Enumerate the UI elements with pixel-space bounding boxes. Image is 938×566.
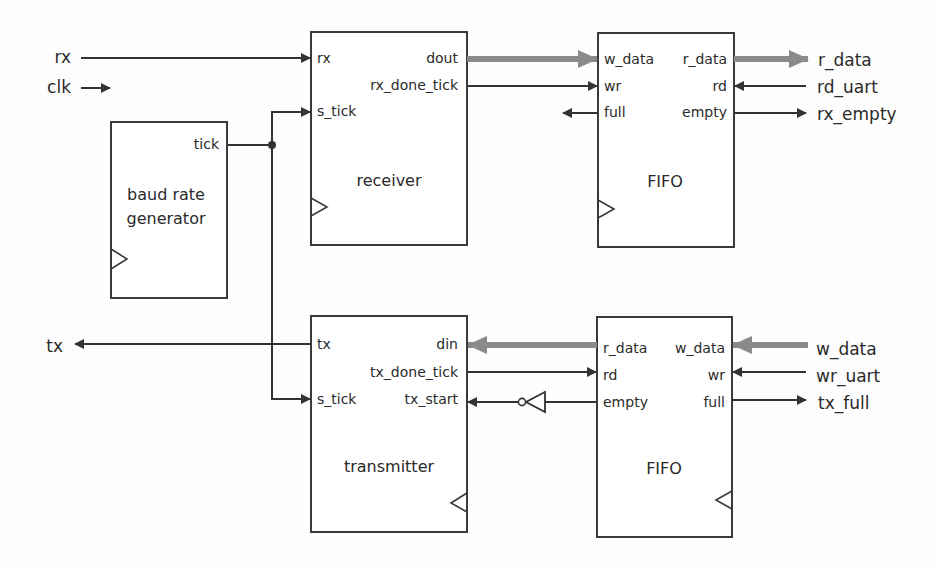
baud-title-line1: baud rate [127,185,205,204]
port-tx-done-tick: tx_done_tick [370,364,459,380]
uart-block-diagram: tick baud rate generator rx s_tick dout … [0,0,938,566]
port-r-data: r_data [683,51,727,67]
transmitter-block: tx s_tick din tx_done_tick tx_start tran… [311,316,467,532]
port-rd: rd [603,367,617,383]
ext-wr-uart-label: wr_uart [816,366,881,387]
port-tick: tick [194,136,220,152]
port-empty: empty [603,394,648,410]
tx-fifo-block: r_data rd empty w_data wr full FIFO [597,317,732,537]
ext-rx-empty-label: rx_empty [817,104,897,125]
port-tx-start: tx_start [405,391,459,407]
tx-fifo-title: FIFO [646,459,682,478]
inverter-icon [526,392,545,412]
rx-fifo-block: w_data wr full r_data rd empty FIFO [598,33,734,247]
ext-clk-label: clk [47,77,71,97]
receiver-block: rx s_tick dout rx_done_tick receiver [311,32,467,245]
receiver-title: receiver [356,171,421,190]
wire-s-tick-tx [272,145,310,399]
ext-rd-uart-label: rd_uart [817,77,878,98]
ext-w-data-label: w_data [816,339,877,360]
ext-tx-label: tx [46,336,63,356]
wire-s-tick-rx [272,112,310,145]
port-dout: dout [426,50,458,66]
baud-rate-generator-block: tick baud rate generator [111,122,227,298]
ext-r-data-label: r_data [818,50,872,71]
inverter-bubble [518,398,525,405]
baud-title-line2: generator [126,209,205,228]
port-full: full [604,104,626,120]
ext-tx-full-label: tx_full [818,393,869,414]
port-r-data: r_data [603,340,647,356]
port-w-data: w_data [675,340,725,356]
port-rx-done-tick: rx_done_tick [370,77,459,93]
port-wr: wr [604,78,621,94]
port-wr: wr [708,367,725,383]
port-rd: rd [713,78,727,94]
port-empty: empty [682,104,727,120]
ext-rx-label: rx [54,47,71,67]
port-s-tick: s_tick [317,103,357,119]
rx-fifo-title: FIFO [647,172,683,191]
port-din: din [436,336,458,352]
port-rx: rx [317,50,331,66]
port-tx: tx [317,336,331,352]
port-s-tick: s_tick [317,391,357,407]
port-full: full [703,394,725,410]
port-w-data: w_data [604,51,654,67]
transmitter-title: transmitter [344,457,435,476]
